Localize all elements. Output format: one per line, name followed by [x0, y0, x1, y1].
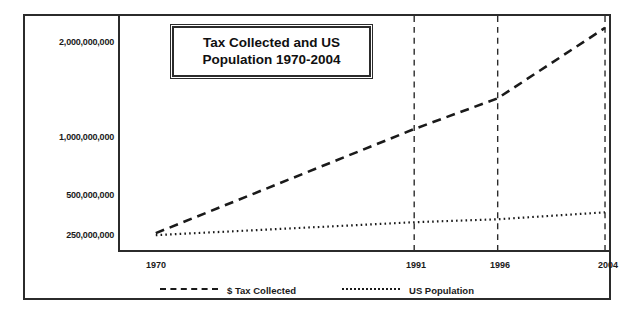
x-tick-label-1996: 1996 — [490, 260, 510, 270]
x-axis: 1970 1991 1996 2004 — [120, 252, 609, 280]
series-line-us-population — [156, 212, 605, 235]
plot-area: Tax Collected and US Population 1970-200… — [120, 16, 609, 252]
chart-legend: $ Tax Collected US Population — [25, 280, 609, 300]
legend-swatch-dotted-icon — [342, 288, 400, 292]
y-tick-label-1000000000: 1,000,000,000 — [59, 132, 114, 142]
y-tick-label-2000000000: 2,000,000,000 — [59, 37, 114, 47]
legend-swatch-dashed-icon — [160, 288, 218, 292]
chart-frame: 2,000,000,000 1,000,000,000 500,000,000 … — [23, 14, 611, 300]
y-tick-label-250000000: 250,000,000 — [66, 230, 114, 240]
page-title-line-2: Population 1970-2004 — [182, 51, 361, 68]
page-title-line-1: Tax Collected and US — [182, 34, 361, 51]
legend-label-tax-collected: $ Tax Collected — [227, 285, 296, 296]
x-tick-label-1970: 1970 — [146, 260, 166, 270]
legend-label-us-population: US Population — [409, 285, 474, 296]
chart-title-box: Tax Collected and US Population 1970-200… — [172, 26, 371, 77]
x-tick-label-1991: 1991 — [406, 260, 426, 270]
y-tick-label-500000000: 500,000,000 — [66, 190, 114, 200]
legend-item-tax-collected: $ Tax Collected — [160, 285, 296, 296]
legend-item-us-population: US Population — [342, 285, 474, 296]
x-tick-label-2004: 2004 — [598, 260, 618, 270]
y-axis: 2,000,000,000 1,000,000,000 500,000,000 … — [25, 16, 120, 252]
